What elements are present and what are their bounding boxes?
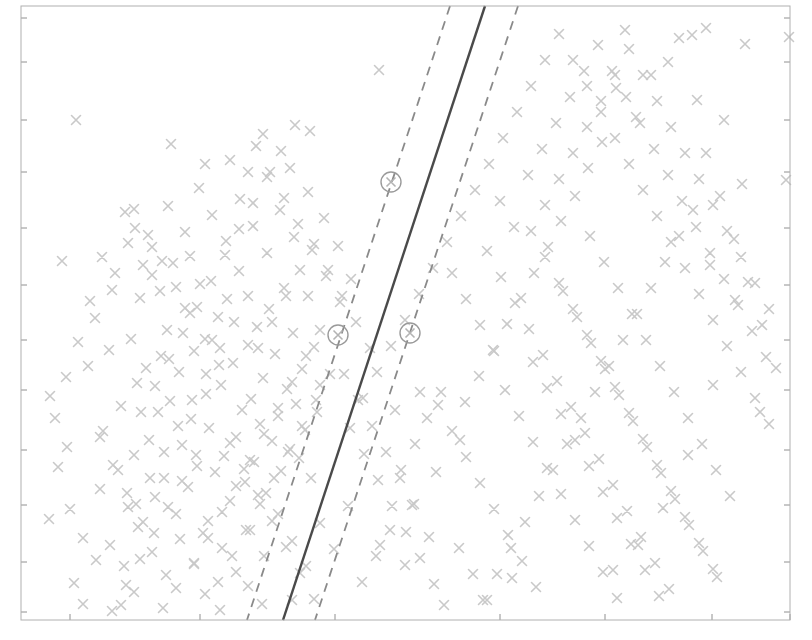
svm-scatter-figure [0, 0, 812, 640]
plot-canvas [0, 0, 812, 640]
